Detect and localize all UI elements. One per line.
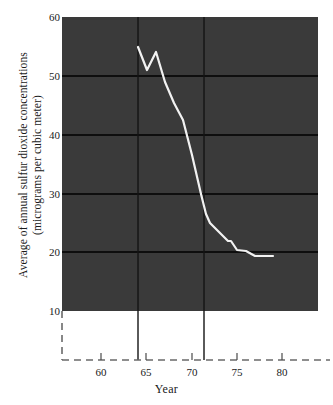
- chart-plot-area: [0, 0, 333, 405]
- x-tick-label-80: 80: [277, 366, 288, 378]
- x-tick-label-70: 70: [187, 366, 198, 378]
- x-tick-label-75: 75: [232, 366, 243, 378]
- x-tick-label-60: 60: [96, 366, 107, 378]
- x-tick-label-65: 65: [141, 366, 152, 378]
- x-axis-dashed-baseline: [62, 311, 330, 360]
- chart-container: Average of annual sulfur dioxide concent…: [0, 0, 333, 405]
- x-axis-ticks: [101, 353, 282, 360]
- x-axis-title: Year: [0, 382, 333, 397]
- plot-background: [62, 17, 318, 311]
